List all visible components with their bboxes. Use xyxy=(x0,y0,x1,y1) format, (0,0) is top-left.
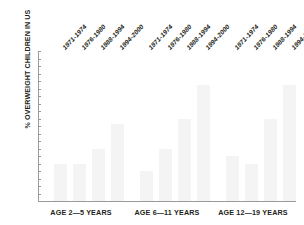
y-axis-tick-mark xyxy=(38,74,41,75)
bar xyxy=(245,164,258,202)
y-axis-tick-mark xyxy=(38,89,41,90)
bar xyxy=(178,119,191,202)
y-axis-tick-mark xyxy=(38,96,41,97)
bar xyxy=(264,119,277,202)
bar xyxy=(283,85,296,201)
y-axis-tick-mark xyxy=(38,194,41,195)
bar-chart-figure: % OVERWEIGHT CHILDREN IN US 201918171615… xyxy=(0,0,304,225)
y-axis-tick-mark xyxy=(38,66,41,67)
y-axis-tick-mark xyxy=(38,126,41,127)
bar xyxy=(159,149,172,202)
bar xyxy=(111,124,124,201)
y-axis-tick-mark xyxy=(38,111,41,112)
y-axis-tick-mark xyxy=(38,171,41,172)
y-axis-title: % OVERWEIGHT CHILDREN IN US xyxy=(21,0,35,149)
y-axis-tick-mark xyxy=(38,51,41,52)
y-axis-tick-mark xyxy=(38,81,41,82)
y-axis-tick-mark xyxy=(38,164,41,165)
x-axis-line xyxy=(38,201,296,202)
group-axis-label: AGE 2—5 YEARS xyxy=(38,207,124,218)
y-axis-tick-mark xyxy=(38,104,41,105)
bar xyxy=(92,149,105,202)
y-axis-tick-mark xyxy=(38,201,41,202)
y-axis-tick-mark xyxy=(38,186,41,187)
bar xyxy=(197,85,210,201)
y-axis-tick-mark xyxy=(38,119,41,120)
y-axis-tick-mark xyxy=(38,156,41,157)
y-axis-tick-mark xyxy=(38,59,41,60)
bar xyxy=(54,164,67,202)
y-axis-tick-mark xyxy=(38,134,41,135)
y-axis-tick-mark xyxy=(38,149,41,150)
y-axis-tick-mark xyxy=(38,179,41,180)
y-axis-tick-mark xyxy=(38,141,41,142)
bar xyxy=(140,171,153,201)
bar xyxy=(226,156,239,201)
group-axis-label: AGE 6—11 YEARS xyxy=(124,207,210,218)
group-axis-label: AGE 12—19 YEARS xyxy=(210,207,296,218)
plot-area xyxy=(38,51,296,202)
bar xyxy=(73,164,86,202)
